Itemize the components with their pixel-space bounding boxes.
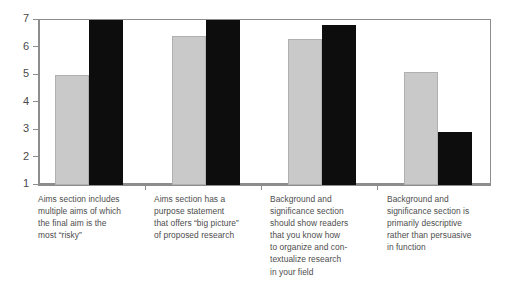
y-tick-label-1: 1 [7, 178, 29, 189]
x-tick-group-2-3 [261, 185, 262, 190]
bar-group-1-gray [55, 75, 89, 185]
y-tick-label-5: 5 [7, 68, 29, 79]
y-tick-label-6: 6 [7, 41, 29, 52]
bar-group-3-gray [288, 39, 322, 185]
category-label-1: Aims section includes multiple aims of w… [38, 193, 146, 241]
y-tick-label-3: 3 [7, 123, 29, 134]
category-label-3: Background and significance section shou… [270, 193, 380, 278]
y-axis-spine [38, 19, 40, 185]
y-tick-label-4: 4 [7, 96, 29, 107]
y-tick-label-7: 7 [7, 13, 29, 24]
x-tick-group-3-4 [377, 185, 378, 190]
bar-group-3-black [322, 25, 356, 185]
bar-group-1-black [89, 20, 123, 185]
x-tick-group-1-2 [145, 185, 146, 190]
category-label-4: Background and significance section is p… [387, 193, 499, 253]
bar-chart-figure: 7 6 5 4 3 2 1 [0, 0, 511, 291]
y-tick-label-2: 2 [7, 151, 29, 162]
bar-group-4-black [438, 132, 472, 184]
bar-group-4-gray [404, 72, 438, 185]
category-label-2: Aims section has a purpose statement tha… [154, 193, 262, 241]
bar-group-2-gray [172, 36, 206, 185]
bar-group-2-black [206, 20, 240, 185]
